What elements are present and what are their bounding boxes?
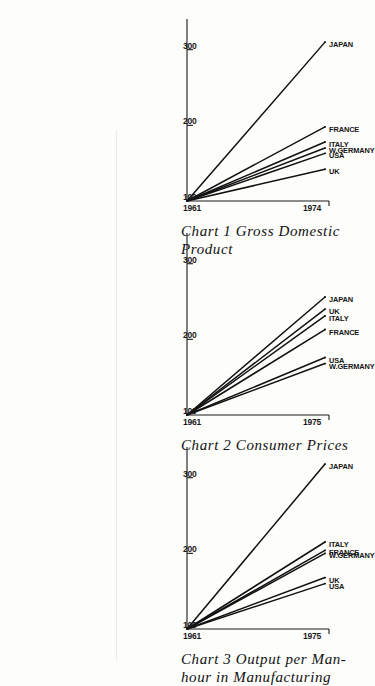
chart-2-series-endpoint-japan [324,296,326,298]
chart-2-series-endpoint-uk [324,308,326,310]
chart-1-series-line-italy [187,142,325,201]
chart-3-series-line-japan [187,464,325,629]
chart-1-plot-area [0,9,357,223]
chart-2-plot-area [0,223,357,437]
chart-1-series-endpoint-usa [324,152,326,154]
chart-3-plot-area [0,437,357,651]
chart-1-series-endpoint-france [324,126,326,128]
chart-1-series-endpoint-wgermany [324,147,326,149]
chart-3-series-endpoint-japan [324,463,326,465]
chart-2-series-endpoint-wgermany [324,363,326,365]
chart-3-series-endpoint-usa [324,583,326,585]
chart-1-xtick-label-start: 1961 [183,203,201,213]
chart-1-series-endpoint-japan [324,41,326,43]
chart-3-origin-value-label: 100 [183,620,197,630]
chart-3-xtick-label-start: 1961 [183,631,201,641]
chart-1: 200300JAPANFRANCEITALYW.GERMANYUSAUK1001… [0,9,357,223]
chart-1-xtick-label-end: 1974 [303,203,321,213]
chart-2-series-line-japan [187,297,325,415]
chart-1-origin-value-label: 100 [183,192,197,202]
chart-2-series-endpoint-italy [324,315,326,317]
chart-3-series-endpoint-france [324,549,326,551]
chart-1-series-endpoint-uk [324,168,326,170]
chart-3-series-endpoint-uk [324,577,326,579]
chart-3-series-endpoint-italy [324,541,326,543]
chart-3-series-endpoint-wgermany [324,552,326,554]
chart-3: 200300JAPANITALYFRANCEW.GERMANYUKUSA1001… [0,437,357,651]
chart-1-series-line-france [187,127,325,201]
chart-3-caption-line-2: hour in Manufacturing [181,669,331,686]
chart-2-series-line-wgermany [187,364,325,415]
chart-3-caption-line-1: Chart 3 Output per Man- [181,651,346,668]
chart-2-series-line-france [187,330,325,415]
chart-2-origin-value-label: 100 [183,406,197,416]
chart-1-series-endpoint-italy [324,141,326,143]
chart-2-xtick-label-end: 1975 [303,417,321,427]
chart-2: 200300JAPANUKITALYFRANCEUSAW.GERMANY1001… [0,223,357,437]
chart-2-xtick-label-start: 1961 [183,417,201,427]
chart-3-xtick-label-end: 1975 [303,631,321,641]
chart-2-series-line-uk [187,309,325,415]
chart-2-series-endpoint-usa [324,357,326,359]
chart-2-series-endpoint-france [324,329,326,331]
